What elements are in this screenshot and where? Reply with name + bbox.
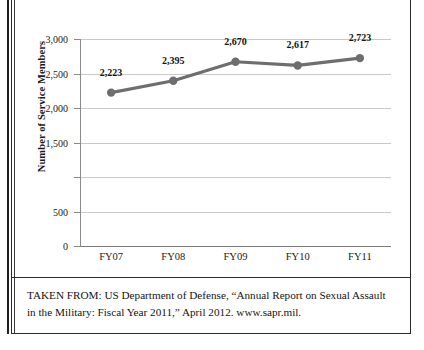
y-axis-tick-label: 1,500 bbox=[16, 137, 68, 148]
x-axis-tick-label: FY11 bbox=[330, 251, 390, 262]
data-point-marker bbox=[169, 77, 177, 85]
x-axis-tick-label: FY08 bbox=[143, 251, 203, 262]
y-axis-tick-label: 2,000 bbox=[16, 103, 68, 114]
x-axis-tick-label: FY10 bbox=[268, 251, 328, 262]
x-axis-tick-label: FY09 bbox=[206, 251, 266, 262]
y-axis-tick-label: 500 bbox=[16, 206, 68, 217]
data-point-label: 2,395 bbox=[138, 55, 208, 66]
figure-frame-left-rule bbox=[7, 0, 9, 334]
y-axis-tick-label: 3,000 bbox=[16, 34, 68, 45]
data-point-marker bbox=[231, 58, 239, 66]
y-axis-tick-label: 2,500 bbox=[16, 68, 68, 79]
y-axis-tick bbox=[74, 177, 80, 178]
data-point-label: 2,617 bbox=[263, 39, 333, 50]
y-axis-tick bbox=[74, 39, 80, 40]
data-point-marker bbox=[356, 54, 364, 62]
data-point-label: 2,223 bbox=[76, 67, 146, 78]
y-axis-tick bbox=[74, 212, 80, 213]
y-axis-tick bbox=[74, 246, 80, 247]
data-point-marker bbox=[107, 88, 115, 96]
data-point-marker bbox=[294, 61, 302, 69]
x-axis-tick-label: FY07 bbox=[81, 251, 141, 262]
caption-divider bbox=[12, 277, 410, 278]
line-chart: Number of Service Members 05001,5002,000… bbox=[12, 0, 412, 283]
data-point-label: 2,723 bbox=[325, 32, 395, 43]
y-axis-tick bbox=[74, 143, 80, 144]
y-axis-tick bbox=[74, 108, 80, 109]
figure-frame: Number of Service Members 05001,5002,000… bbox=[11, 0, 411, 334]
data-point-label: 2,670 bbox=[201, 36, 271, 47]
figure-source-caption: TAKEN FROM: US Department of Defense, “A… bbox=[27, 287, 395, 321]
y-axis-tick-label: 0 bbox=[16, 241, 68, 252]
